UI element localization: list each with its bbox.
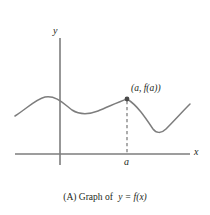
y-axis-label: y [53,26,57,36]
function-curve [15,97,190,133]
x-axis-label: x [194,147,198,157]
caption-formula: y = f(x) [118,192,147,202]
caption-label: (A) [63,192,76,202]
plot-svg [0,0,210,185]
plot-area [0,0,210,185]
point-label-a-f-a: (a, f(a)) [131,84,161,94]
point-marker-a-f-a [125,97,130,102]
figure-graph-of-y-equals-f-of-x: y x a (a, f(a)) (A) Graph of y = f(x) [0,0,210,215]
x-axis-tick-label-a: a [124,157,129,167]
figure-caption: (A) Graph of y = f(x) [0,192,210,203]
caption-text: Graph of [79,192,113,202]
